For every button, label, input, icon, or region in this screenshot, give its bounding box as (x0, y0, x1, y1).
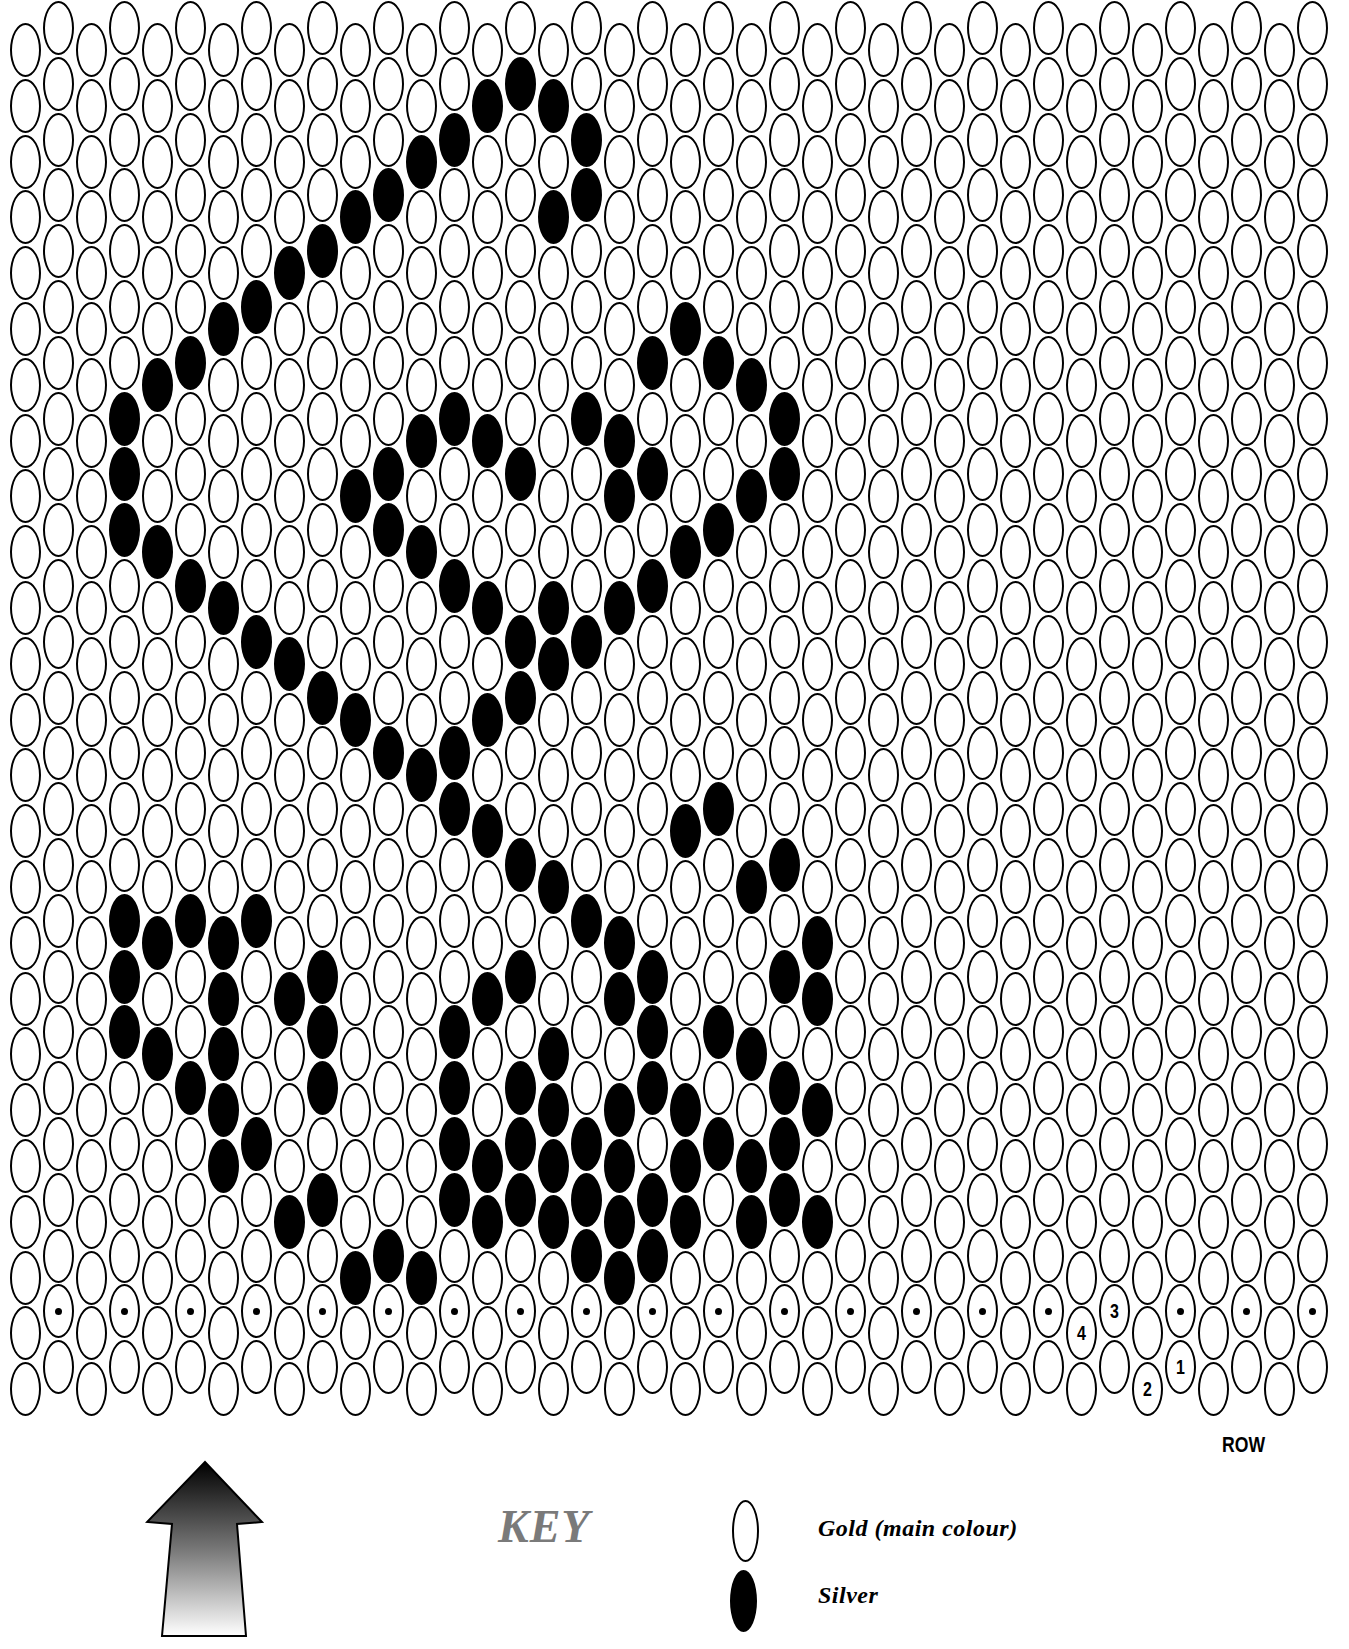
bead-gold (208, 1251, 239, 1305)
bead-gold (142, 23, 173, 77)
bead-gold (769, 1284, 800, 1338)
bead-gold (571, 726, 602, 780)
bead-silver (307, 1173, 338, 1227)
bead-gold (1066, 358, 1097, 412)
bead-gold (901, 726, 932, 780)
bead-gold (967, 1061, 998, 1115)
bead-gold (1264, 1195, 1295, 1249)
bead-gold (1264, 246, 1295, 300)
bead-silver (208, 1139, 239, 1193)
bead-gold (208, 748, 239, 802)
bead-gold (1033, 615, 1064, 669)
bead-gold (43, 1284, 74, 1338)
bead-gold (835, 280, 866, 334)
bead-gold (538, 135, 569, 189)
bead-gold (835, 671, 866, 725)
bead-gold (274, 1027, 305, 1081)
bead-silver (472, 79, 503, 133)
bead-gold (1165, 392, 1196, 446)
bead-gold (538, 525, 569, 579)
bead-gold (967, 838, 998, 892)
bead-gold (340, 23, 371, 77)
bead-gold (10, 525, 41, 579)
bead-gold (703, 113, 734, 167)
bead-gold (1198, 246, 1229, 300)
bead-gold (868, 302, 899, 356)
bead-silver (538, 860, 569, 914)
bead-gold (43, 57, 74, 111)
bead-gold (373, 57, 404, 111)
bead-gold (1033, 726, 1064, 780)
bead-gold (1264, 693, 1295, 747)
bead-gold (1297, 838, 1328, 892)
bead-gold (76, 1083, 107, 1137)
bead-gold (1231, 1061, 1262, 1115)
bead-silver (538, 1195, 569, 1249)
bead-gold (967, 1117, 998, 1171)
bead-gold (109, 1061, 140, 1115)
bead-gold (868, 135, 899, 189)
bead-gold (1066, 748, 1097, 802)
bead-gold (934, 1306, 965, 1360)
bead-gold (1000, 1362, 1031, 1416)
bead-gold (1132, 358, 1163, 412)
bead-gold (472, 525, 503, 579)
bead-gold (505, 280, 536, 334)
bead-gold (868, 748, 899, 802)
bead-gold (1066, 79, 1097, 133)
bead-gold (1198, 804, 1229, 858)
bead-gold (1000, 748, 1031, 802)
bead-gold (703, 392, 734, 446)
bead-gold (472, 302, 503, 356)
bead-gold (43, 168, 74, 222)
bead-gold (637, 615, 668, 669)
bead-gold (901, 113, 932, 167)
bead-silver (439, 1061, 470, 1115)
bead-gold (637, 113, 668, 167)
bead-gold (1099, 1061, 1130, 1115)
bead-gold (901, 224, 932, 278)
bead-gold (142, 190, 173, 244)
bead-gold (76, 581, 107, 635)
bead-gold (76, 1306, 107, 1360)
bead-silver (439, 726, 470, 780)
bead-gold (571, 503, 602, 557)
bead-gold (1000, 637, 1031, 691)
bead-silver (274, 637, 305, 691)
bead-gold (43, 392, 74, 446)
bead-gold (1066, 1139, 1097, 1193)
bead-gold (472, 1251, 503, 1305)
bead-gold (967, 782, 998, 836)
bead-gold (1132, 1027, 1163, 1081)
bead-gold (769, 726, 800, 780)
bead-gold (637, 1340, 668, 1394)
bead-gold (1198, 1195, 1229, 1249)
bead-gold (1165, 1173, 1196, 1227)
bead-gold (901, 838, 932, 892)
bead-gold (1264, 414, 1295, 468)
bead-silver (109, 392, 140, 446)
bead-gold (934, 637, 965, 691)
bead-gold (1066, 972, 1097, 1026)
bead-gold (868, 469, 899, 523)
bead-gold (472, 190, 503, 244)
bead-gold (769, 1340, 800, 1394)
bead-gold (538, 1306, 569, 1360)
bead-gold (241, 1005, 272, 1059)
bead-silver (307, 1005, 338, 1059)
bead-gold (538, 469, 569, 523)
bead-gold (1033, 1, 1064, 55)
bead-gold (274, 469, 305, 523)
bead-gold (670, 637, 701, 691)
bead-gold (1132, 135, 1163, 189)
bead-gold (802, 358, 833, 412)
bead-gold (1231, 57, 1262, 111)
bead-silver (109, 447, 140, 501)
bead-gold (802, 1306, 833, 1360)
bead-gold (802, 1362, 833, 1416)
bead-gold (769, 1005, 800, 1059)
bead-gold (439, 280, 470, 334)
bead-gold (967, 113, 998, 167)
bead-gold (472, 748, 503, 802)
bead-gold (1000, 414, 1031, 468)
